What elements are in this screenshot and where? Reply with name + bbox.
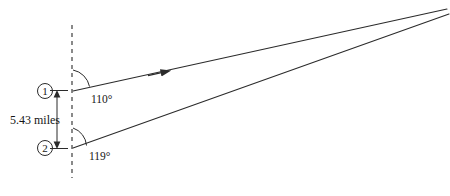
station-marker-1-label: 1 bbox=[42, 85, 48, 97]
distance-label: 5.43 miles bbox=[10, 113, 60, 127]
angle-label-station-2: 119° bbox=[89, 150, 111, 162]
angle-label-station-1: 110° bbox=[91, 93, 113, 105]
bearing-diagram: 110° 119° 5.43 miles 1 2 bbox=[0, 0, 450, 196]
diagram-background bbox=[0, 0, 450, 196]
station-marker-2-label: 2 bbox=[42, 142, 48, 154]
diagram-canvas: 110° 119° 5.43 miles 1 2 bbox=[0, 0, 450, 196]
